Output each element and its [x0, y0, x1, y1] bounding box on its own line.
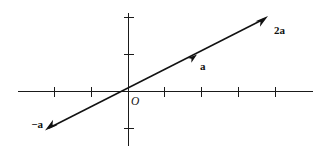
- vector-line-segment: [49, 19, 264, 128]
- vector-diagram-figure: 2a a −a O: [0, 0, 329, 156]
- arrowhead-2a: [256, 13, 271, 27]
- arrowhead-neg-a-glyph: [43, 120, 58, 134]
- axes-group: [18, 13, 313, 146]
- vector-line-group: [49, 19, 264, 128]
- label-vector-2a: 2a: [274, 24, 286, 36]
- arrowhead-neg-a: [43, 120, 58, 134]
- arrowhead-2a-glyph: [256, 13, 271, 27]
- label-vector-a: a: [200, 60, 206, 72]
- label-vector-neg-a: −a: [31, 118, 43, 130]
- label-origin: O: [131, 95, 140, 107]
- vector-diagram-canvas: 2a a −a O: [0, 0, 329, 156]
